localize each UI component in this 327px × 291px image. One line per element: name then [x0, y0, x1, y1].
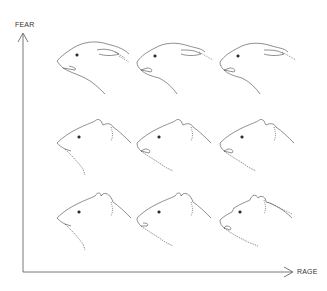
wolf-head-icon: [218, 115, 298, 177]
wolf-head-icon: [135, 115, 215, 177]
wolf-head-fear-high-rage-medium: [135, 40, 215, 102]
wolf-head-fear-high-rage-low: [55, 38, 135, 100]
wolf-head-fear-medium-rage-high: [218, 115, 298, 177]
wolf-head-icon: [135, 40, 215, 102]
wolf-head-fear-high-rage-high: [218, 40, 298, 102]
wolf-head-icon: [55, 115, 135, 177]
wolf-head-fear-low-rage-low: [55, 190, 135, 252]
wolf-head-icon: [55, 190, 135, 252]
wolf-head-icon: [135, 190, 215, 252]
wolf-head-icon: [55, 38, 135, 100]
x-axis-label: RAGE: [297, 268, 318, 275]
wolf-head-icon: [218, 40, 298, 102]
wolf-head-fear-medium-rage-medium: [135, 115, 215, 177]
y-axis-label: FEAR: [15, 21, 34, 28]
wolf-head-fear-medium-rage-low: [55, 115, 135, 177]
wolf-head-fear-low-rage-high: [218, 190, 298, 252]
wolf-head-icon: [218, 190, 298, 252]
wolf-head-fear-low-rage-medium: [135, 190, 215, 252]
